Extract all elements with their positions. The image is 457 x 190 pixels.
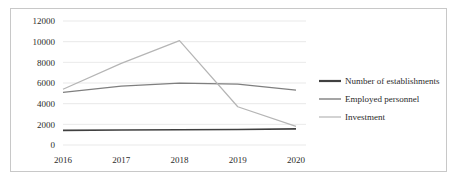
series-line: [63, 129, 296, 130]
x-tick-label: 2017: [112, 155, 131, 165]
series-line: [63, 83, 296, 92]
x-tick-label: 2016: [54, 155, 73, 165]
x-tick-label: 2019: [229, 155, 248, 165]
y-tick-label: 10000: [33, 37, 56, 47]
legend-label: Employed personnel: [345, 94, 420, 104]
x-tick-label: 2020: [287, 155, 306, 165]
series-lines: [63, 41, 296, 131]
y-tick-label: 6000: [37, 78, 56, 88]
y-tick-label: 0: [51, 140, 56, 150]
line-chart: 020004000600080001000012000 201620172018…: [11, 9, 448, 173]
y-tick-label: 2000: [37, 120, 56, 130]
y-tick-label: 12000: [33, 16, 56, 26]
x-tick-label: 2018: [171, 155, 190, 165]
y-tick-label: 4000: [37, 99, 56, 109]
chart-legend: Number of establishmentsEmployed personn…: [319, 76, 440, 122]
y-axis-tick-labels: 020004000600080001000012000: [33, 16, 56, 150]
legend-label: Number of establishments: [345, 76, 440, 86]
legend-label: Investment: [345, 112, 385, 122]
y-tick-label: 8000: [37, 58, 56, 68]
chart-figure: 020004000600080001000012000 201620172018…: [10, 8, 447, 172]
x-axis-tick-labels: 20162017201820192020: [54, 155, 306, 165]
